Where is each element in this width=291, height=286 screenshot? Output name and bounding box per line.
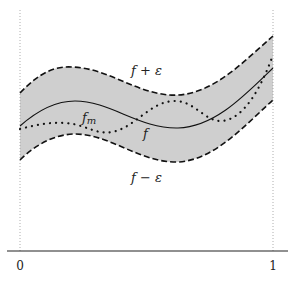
fm-label-sub: m xyxy=(87,115,96,126)
x-tick-1: 1 xyxy=(269,259,277,273)
lower-bound-label: f − ε xyxy=(130,170,162,185)
upper-bound-label: f + ε xyxy=(130,63,162,78)
approximation-figure: f + ε f − ε f fm 0 1 xyxy=(0,0,291,286)
epsilon-band xyxy=(20,36,273,162)
x-tick-0: 0 xyxy=(16,259,24,273)
